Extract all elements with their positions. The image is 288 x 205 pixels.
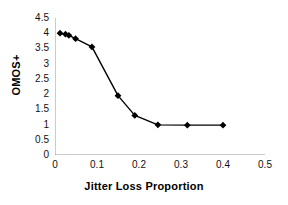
x-tick-label: 0.3 [174, 160, 188, 170]
chart-figure: 00.511.522.533.544.5 00.10.20.30.40.5 Ji… [0, 0, 288, 205]
y-axis-title: OMOS+ [10, 35, 22, 115]
x-axis-title: Jitter Loss Proportion [0, 180, 288, 192]
x-axis-tick-labels: 00.10.20.30.40.5 [0, 0, 288, 205]
x-tick-label: 0.4 [216, 160, 230, 170]
x-tick-label: 0.1 [90, 160, 104, 170]
x-tick-label: 0 [52, 160, 58, 170]
x-tick-label: 0.5 [258, 160, 272, 170]
x-tick-label: 0.2 [132, 160, 146, 170]
